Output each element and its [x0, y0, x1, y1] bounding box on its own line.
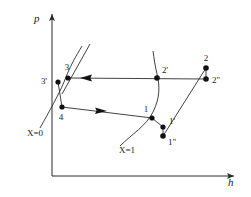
- saturation-curves-group: [40, 46, 159, 146]
- point-label-2: 2: [204, 53, 209, 63]
- point-label-2dprime: 2": [212, 75, 221, 85]
- point-dot-3prime[interactable]: [55, 79, 60, 84]
- point-dot-2[interactable]: [203, 65, 209, 71]
- point-label-3prime: 3': [41, 76, 48, 86]
- process-expansion-line: [58, 82, 62, 107]
- flow-arrows-group: [80, 75, 107, 114]
- point-label-1dprime: 1": [168, 137, 177, 147]
- point-label-1: 1: [144, 104, 149, 114]
- quality-label-x1: X=1: [119, 145, 135, 155]
- point-dot-1[interactable]: [149, 115, 154, 120]
- state-points-group: [55, 65, 208, 139]
- state-point-labels-group: 3' 3 4 1 1' 1" 2' 2 2": [41, 53, 220, 147]
- quality-line-labels-group: X=0 X=1: [27, 128, 135, 155]
- process-path-group: [58, 44, 206, 136]
- point-label-2prime: 2': [162, 65, 169, 75]
- point-dot-4[interactable]: [59, 104, 64, 109]
- point-dot-2dprime[interactable]: [203, 76, 209, 82]
- point-dot-1prime[interactable]: [160, 124, 165, 129]
- process-evaporation-line: [62, 107, 152, 118]
- point-label-3: 3: [65, 62, 70, 72]
- y-axis-label: p: [33, 12, 40, 24]
- saturated-vapor-curve: [120, 51, 159, 146]
- ph-diagram-figure: p h: [0, 0, 251, 197]
- point-dot-1dprime[interactable]: [160, 133, 166, 139]
- diagram-canvas: p h: [0, 0, 251, 197]
- point-label-4: 4: [59, 112, 64, 122]
- point-label-1prime: 1': [169, 116, 176, 126]
- quality-label-x0: X=0: [27, 128, 44, 138]
- x-axis-label: h: [228, 176, 234, 188]
- axes-group: p h: [33, 12, 234, 188]
- point-dot-2prime[interactable]: [154, 75, 160, 81]
- arrow-condensation-left-icon: [80, 75, 92, 82]
- arrow-evaporation-right-icon: [95, 107, 107, 114]
- point-dot-3[interactable]: [65, 75, 70, 80]
